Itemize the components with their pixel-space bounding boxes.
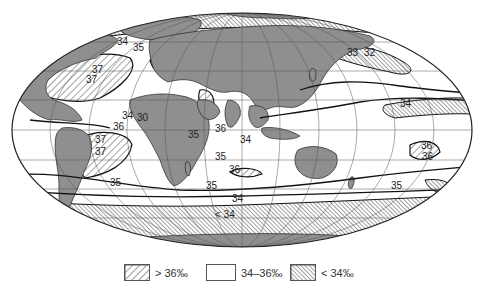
label-sp-35: 35 xyxy=(391,180,403,191)
legend-label-low: < 34‰ xyxy=(321,267,354,279)
label-na-35: 35 xyxy=(133,42,145,53)
label-so-35: 35 xyxy=(110,177,122,188)
hatch-sparse-swatch-icon xyxy=(124,264,150,281)
legend-item-high: > 36‰ xyxy=(124,264,188,281)
label-sio-36: 36 xyxy=(229,164,241,175)
label-np-33: 33 xyxy=(347,47,359,58)
label-sp-36b: 36 xyxy=(422,151,434,162)
label-arab-36: 36 xyxy=(215,123,227,134)
label-med-30: 30 xyxy=(137,112,149,123)
label-sio-35b: 35 xyxy=(206,180,218,191)
label-eatl-36: 36 xyxy=(113,121,125,132)
label-npac-34: 34 xyxy=(400,98,412,109)
plain-swatch-icon xyxy=(206,264,236,281)
legend-item-low: < 34‰ xyxy=(290,264,354,281)
legend-label-high: > 36‰ xyxy=(155,267,188,279)
label-io-35: 35 xyxy=(215,151,227,162)
label-so-34: 34 xyxy=(232,193,244,204)
label-bengal-34: 34 xyxy=(240,134,252,145)
legend-item-mid: 34–36‰ xyxy=(206,264,283,281)
label-na-37b: 37 xyxy=(86,74,98,85)
label-sp-36a: 36 xyxy=(421,140,433,151)
label-satl-37a: 37 xyxy=(95,134,107,145)
label-satl-37b: 37 xyxy=(95,146,107,157)
label-so-lt34: < 34 xyxy=(215,209,235,220)
japan xyxy=(309,68,316,81)
label-med-34: 34 xyxy=(122,110,134,121)
legend-label-mid: 34–36‰ xyxy=(241,267,283,279)
hatch-dense-swatch-icon xyxy=(290,264,316,281)
label-sw-35: 35 xyxy=(188,129,200,140)
label-na-34: 34 xyxy=(117,36,129,47)
label-np-32: 32 xyxy=(364,47,376,58)
legend: > 36‰ 34–36‰ < 34‰ xyxy=(0,258,485,288)
salinity-world-map: 34 35 37 37 34 30 36 37 37 35 36 34 35 3… xyxy=(0,0,485,296)
